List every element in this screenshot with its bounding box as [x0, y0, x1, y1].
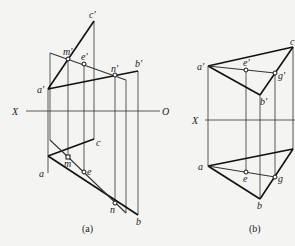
label-m: m: [64, 158, 71, 169]
point-e-prime: [82, 62, 86, 66]
label-c-a: c: [96, 137, 101, 148]
line-b-c-b: [260, 149, 293, 199]
label-b-prime-b: b': [260, 96, 268, 107]
line-a-prime-c-prime-b: [208, 47, 293, 66]
figure-b: X a' e' g': [191, 36, 295, 235]
label-c-prime-a: c': [89, 9, 96, 20]
caption-b: (b): [249, 223, 261, 235]
label-g: g: [278, 173, 283, 184]
label-e-prime-b: e': [243, 57, 250, 68]
label-e-a: e: [87, 166, 92, 177]
label-n: n: [110, 204, 115, 215]
point-g: [273, 175, 277, 179]
label-b-a: b: [136, 216, 141, 227]
axis-label-o-a: O: [162, 106, 169, 117]
label-a-prime-a: a': [37, 84, 45, 95]
label-n-prime: n': [111, 63, 119, 74]
axis-label-x-b: X: [191, 115, 199, 126]
point-e-prime-b: [244, 68, 248, 72]
point-m-prime: [66, 57, 70, 61]
label-e-b: e: [243, 173, 248, 184]
label-m-prime: m': [63, 46, 73, 57]
label-a-prime-b: a': [197, 61, 205, 72]
line-through-m-e-n: [68, 157, 126, 213]
axis-label-x-a: X: [11, 106, 19, 117]
caption-a: (a): [82, 223, 93, 235]
line-a-b-b: [208, 166, 260, 199]
label-b-b: b: [257, 200, 262, 211]
line-a-b: [48, 156, 138, 215]
label-e-prime-a: e': [81, 51, 88, 62]
label-c-prime-b: c': [290, 36, 295, 47]
line-a-c-b: [208, 149, 293, 166]
top-view-a: [48, 139, 138, 215]
projection-diagram: X O: [0, 0, 295, 246]
label-a-b: a: [198, 161, 203, 172]
point-g-prime: [273, 71, 277, 75]
front-view-a: [48, 21, 138, 89]
label-a-a: a: [39, 168, 44, 179]
label-b-prime-a: b': [135, 58, 143, 69]
line-a-c: [48, 139, 94, 156]
label-g-prime: g': [278, 70, 286, 81]
point-e: [82, 170, 86, 174]
figure-a: X O: [11, 9, 169, 235]
